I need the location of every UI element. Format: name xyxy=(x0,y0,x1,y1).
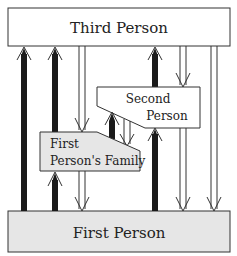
arrow-first-to-family xyxy=(48,172,62,211)
node-first-person-label: First Person xyxy=(73,224,166,242)
node-third-person-label: Third Person xyxy=(70,19,168,37)
arrow-second-to-family xyxy=(120,119,134,146)
arrow-third-to-second xyxy=(176,46,190,87)
node-family-line1: First xyxy=(50,137,79,151)
arrow-first-to-third-1 xyxy=(17,47,31,211)
arrow-family-to-first xyxy=(75,171,89,211)
arrow-third-to-family xyxy=(75,46,89,132)
node-first-person: First Person xyxy=(8,211,230,252)
node-second-person-line1: Second xyxy=(126,92,171,106)
arrow-first-to-third-3 xyxy=(148,47,162,211)
arrow-second-to-first xyxy=(176,128,190,211)
node-second-person-line2: Person xyxy=(146,109,188,123)
arrow-first-to-third-2 xyxy=(48,47,62,132)
arrow-third-to-first xyxy=(207,46,221,211)
node-family-line2: Person's Family xyxy=(50,154,145,168)
relationship-diagram: Third Person First Person xyxy=(0,0,237,256)
arrow-family-to-second xyxy=(105,112,119,139)
node-third-person: Third Person xyxy=(8,8,230,46)
